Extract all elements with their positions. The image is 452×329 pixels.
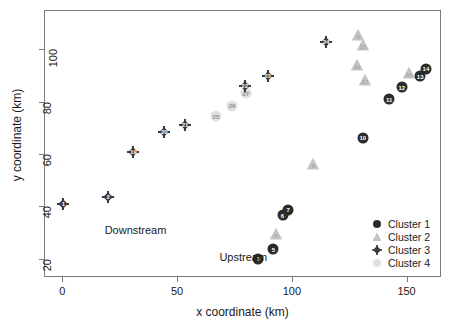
data-point: 8 (306, 157, 320, 171)
data-point: 7 (283, 204, 294, 215)
data-point-label: 13 (417, 73, 424, 79)
data-point-label: 11 (386, 96, 392, 102)
data-point: 1 (57, 198, 69, 210)
y-tick-label: 80 (35, 96, 47, 108)
legend-label: Cluster 2 (388, 231, 430, 243)
legend-marker-circle-icon (370, 256, 384, 269)
x-tick-label: 100 (283, 285, 301, 297)
data-point: 19 (127, 146, 139, 158)
y-tick-label: 40 (35, 200, 47, 212)
legend-marker-triangle-icon (370, 230, 384, 243)
x-axis-title: x coordinate (km) (44, 305, 441, 319)
data-point: 25 (210, 111, 221, 122)
data-point: 4 (269, 227, 283, 241)
data-point: 15 (356, 38, 370, 52)
data-point: 17 (358, 73, 372, 87)
data-point-label: 26 (229, 103, 236, 109)
legend-label: Cluster 3 (388, 244, 430, 256)
legend-item-4[interactable]: Cluster 4 (370, 256, 430, 269)
plot-annotation: Upstream (219, 251, 267, 263)
data-point: 20 (158, 126, 170, 138)
chart-root: 2526271219202122232448915161718356710111… (0, 0, 452, 329)
y-tick-label: 60 (35, 148, 47, 160)
data-point: 5 (268, 244, 279, 255)
data-point: 10 (357, 132, 368, 143)
data-point-label: 14 (423, 66, 430, 72)
data-point: 26 (227, 100, 238, 111)
plot-frame: 2526271219202122232448915161718356710111… (44, 10, 441, 277)
data-point: 22 (239, 80, 251, 92)
x-tick-label: 50 (171, 285, 183, 297)
data-point: 23 (262, 70, 274, 82)
data-point-label: 7 (287, 207, 290, 213)
x-tick-label: 0 (59, 285, 65, 297)
x-tick-mark (177, 277, 178, 282)
legend-label: Cluster 1 (388, 218, 430, 230)
data-point: 12 (396, 82, 407, 93)
y-tick-label: 20 (35, 253, 47, 265)
chart-legend: Cluster 1Cluster 2Cluster 3Cluster 4 (366, 213, 436, 273)
legend-item-2[interactable]: Cluster 2 (370, 230, 430, 243)
data-point-label: 25 (213, 113, 220, 119)
legend-item-3[interactable]: Cluster 3 (370, 243, 430, 256)
plot-annotation: Downstream (105, 224, 167, 236)
data-point: 24 (320, 36, 332, 48)
data-point: 16 (350, 58, 364, 72)
data-point-label: 5 (272, 246, 275, 252)
data-point-label: 12 (398, 84, 405, 90)
data-point: 2 (102, 191, 114, 203)
y-axis-title: y coordinate (km) (10, 55, 24, 215)
x-tick-mark (62, 277, 63, 282)
legend-marker-circle-icon (370, 217, 384, 230)
data-point-label: 10 (359, 135, 366, 141)
legend-marker-diamond-plus-icon (370, 243, 384, 256)
legend-label: Cluster 4 (388, 257, 430, 269)
x-tick-mark (292, 277, 293, 282)
data-point: 11 (384, 94, 395, 105)
data-point: 18 (402, 66, 416, 80)
data-point: 21 (179, 119, 191, 131)
x-tick-label: 150 (397, 285, 415, 297)
y-tick-label: 100 (35, 43, 53, 55)
legend-item-1[interactable]: Cluster 1 (370, 217, 430, 230)
x-tick-mark (407, 277, 408, 282)
data-point: 14 (420, 63, 431, 74)
